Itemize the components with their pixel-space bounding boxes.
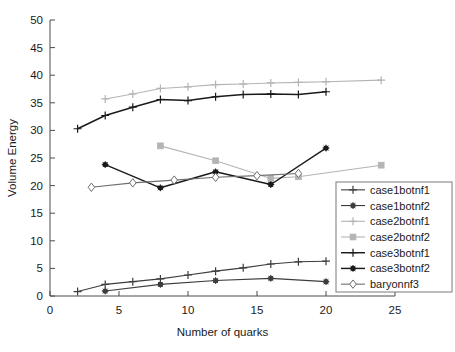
data-point-marker xyxy=(184,271,192,279)
y-tick-label: 20 xyxy=(30,180,43,192)
data-point-marker xyxy=(129,90,137,98)
series-case3botnf1 xyxy=(74,88,330,133)
data-point-marker xyxy=(101,111,109,119)
data-point-marker xyxy=(212,267,220,275)
data-point-marker xyxy=(322,257,330,265)
data-point-marker xyxy=(350,234,356,240)
data-point-marker xyxy=(212,173,219,181)
data-point-marker xyxy=(267,90,275,98)
legend-label-baryonnf3: baryonnf3 xyxy=(370,278,419,290)
legend-label-case1botnf2: case1botnf2 xyxy=(370,200,430,212)
x-tick-label: 20 xyxy=(320,304,333,316)
x-tick-label: 15 xyxy=(251,304,264,316)
x-tick-label: 0 xyxy=(47,304,53,316)
y-axis-title: Volume Energy xyxy=(6,119,18,197)
series-case1botnf2 xyxy=(102,275,330,294)
data-point-marker xyxy=(101,95,109,103)
data-point-marker xyxy=(378,162,384,168)
y-tick-label: 40 xyxy=(30,69,43,81)
data-point-marker xyxy=(323,145,330,152)
data-point-marker xyxy=(239,91,247,99)
data-point-marker xyxy=(212,277,219,284)
y-tick-label: 15 xyxy=(30,207,43,219)
data-point-marker xyxy=(267,260,275,268)
data-point-marker xyxy=(268,176,274,182)
data-point-marker xyxy=(267,275,274,282)
data-point-marker xyxy=(74,288,82,296)
y-tick-label: 50 xyxy=(30,14,43,26)
data-point-marker xyxy=(184,83,192,91)
legend-label-case3botnf2: case3botnf2 xyxy=(370,262,430,274)
data-point-marker xyxy=(157,184,164,191)
y-tick-label: 35 xyxy=(30,97,43,109)
data-point-marker xyxy=(158,143,164,149)
y-tick-label: 10 xyxy=(30,235,43,247)
chart-figure: 051015202530354045500510152025Number of … xyxy=(0,0,455,352)
data-point-marker xyxy=(267,79,275,87)
data-point-marker xyxy=(350,202,357,209)
legend-entry-baryonnf3[interactable]: baryonnf3 xyxy=(341,278,419,290)
y-tick-label: 25 xyxy=(30,152,43,164)
series-case2botnf1 xyxy=(101,76,385,103)
data-point-marker xyxy=(157,281,164,288)
data-point-marker xyxy=(294,258,302,266)
series-case3botnf2 xyxy=(102,145,330,192)
data-point-marker xyxy=(212,81,220,89)
data-point-marker xyxy=(88,183,95,191)
data-point-marker xyxy=(239,264,247,272)
y-tick-label: 30 xyxy=(30,124,43,136)
data-point-marker xyxy=(212,93,220,101)
data-point-marker xyxy=(130,179,137,187)
data-point-marker xyxy=(239,80,247,88)
data-point-marker xyxy=(377,76,385,84)
data-point-marker xyxy=(156,84,164,92)
legend: case1botnf1case1botnf2case2botnf1case2bo… xyxy=(336,182,452,292)
series-line-case2botnf2 xyxy=(160,146,381,179)
data-point-marker xyxy=(74,125,82,133)
data-point-marker xyxy=(156,95,164,103)
data-point-marker xyxy=(294,78,302,86)
data-point-marker xyxy=(294,91,302,99)
data-point-marker xyxy=(323,278,330,285)
legend-label-case1botnf1: case1botnf1 xyxy=(370,184,430,196)
data-point-marker xyxy=(184,97,192,105)
data-point-marker xyxy=(101,280,109,288)
data-point-marker xyxy=(102,288,109,295)
y-tick-label: 5 xyxy=(37,262,43,274)
x-tick-label: 25 xyxy=(389,304,402,316)
series-line-baryonnf3 xyxy=(91,173,298,187)
data-point-marker xyxy=(129,278,137,286)
data-point-marker xyxy=(322,88,330,96)
data-point-marker xyxy=(129,103,137,111)
x-tick-label: 5 xyxy=(116,304,122,316)
legend-label-case2botnf2: case2botnf2 xyxy=(370,231,430,243)
series-line-case1botnf1 xyxy=(78,261,326,291)
legend-label-case3botnf1: case3botnf1 xyxy=(370,247,430,259)
series-case2botnf2 xyxy=(158,143,385,181)
legend-label-case2botnf1: case2botnf1 xyxy=(370,215,430,227)
x-tick-label: 10 xyxy=(182,304,195,316)
x-axis-title: Number of quarks xyxy=(177,326,269,338)
y-tick-label: 45 xyxy=(30,42,43,54)
plot-canvas: 051015202530354045500510152025Number of … xyxy=(0,0,455,352)
data-point-marker xyxy=(322,78,330,86)
data-point-marker xyxy=(213,158,219,164)
y-tick-label: 0 xyxy=(37,290,43,302)
data-point-marker xyxy=(102,161,109,168)
